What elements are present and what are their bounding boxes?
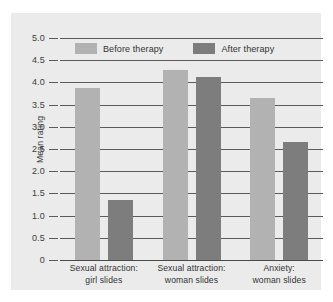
y-axis-tick-label: 4.5 — [32, 55, 45, 65]
y-axis-tick-label: 0 — [40, 255, 45, 265]
x-axis-category-label: Anxiety:woman slides — [253, 263, 306, 286]
y-axis-tick-label: 0.5 — [32, 233, 45, 243]
x-axis-category-label: Sexual attraction:woman slides — [157, 263, 225, 286]
legend-label-after-therapy: After therapy — [221, 44, 274, 54]
y-axis-tick — [49, 260, 58, 261]
bar — [108, 200, 133, 260]
x-axis-category-label-line: Sexual attraction: — [157, 263, 225, 275]
legend-swatch-before-therapy — [75, 43, 97, 54]
y-axis-tick — [49, 238, 58, 239]
x-axis-category-label-line: girl slides — [70, 275, 138, 287]
bar — [75, 88, 100, 260]
bar — [283, 142, 308, 260]
bar — [196, 77, 221, 260]
gridline — [60, 260, 323, 261]
legend-entry-after-therapy: After therapy — [193, 43, 274, 54]
y-axis-tick — [49, 171, 58, 172]
y-axis-tick-label: 1.0 — [32, 211, 45, 221]
y-axis-tick-label: 2.0 — [32, 166, 45, 176]
x-axis-category-label-line: woman slides — [157, 275, 225, 287]
y-axis-tick-label: 5.0 — [32, 33, 45, 43]
y-axis-tick — [49, 127, 58, 128]
chart-panel: Mean rating 00.51.01.52.02.53.03.54.04.5… — [11, 13, 321, 290]
x-axis-category-label: Sexual attraction:girl slides — [70, 263, 138, 286]
gridline — [60, 60, 323, 61]
x-axis-category-labels: Sexual attraction:girl slidesSexual attr… — [60, 263, 323, 295]
x-axis-category-label-line: Sexual attraction: — [70, 263, 138, 275]
y-axis-tick — [49, 193, 58, 194]
plot-area: 00.51.01.52.02.53.03.54.04.55.0 — [60, 38, 323, 260]
gridline — [60, 82, 323, 83]
legend-label-before-therapy: Before therapy — [103, 44, 163, 54]
legend-swatch-after-therapy — [193, 43, 215, 54]
figure: Mean rating 00.51.01.52.02.53.03.54.04.5… — [0, 0, 333, 302]
y-axis-tick — [49, 105, 58, 106]
y-axis-tick-label: 4.0 — [32, 77, 45, 87]
chart-legend: Before therapy After therapy — [75, 43, 274, 54]
y-axis-tick — [49, 216, 58, 217]
y-axis-tick-label: 3.5 — [32, 100, 45, 110]
y-axis-tick — [49, 82, 58, 83]
y-axis-tick — [49, 38, 58, 39]
x-axis-category-label-line: Anxiety: — [253, 263, 306, 275]
y-axis-tick-label: 2.5 — [32, 144, 45, 154]
y-axis-tick — [49, 60, 58, 61]
gridline — [60, 38, 323, 39]
bar — [250, 98, 275, 260]
legend-entry-before-therapy: Before therapy — [75, 43, 163, 54]
y-axis-tick-label: 1.5 — [32, 188, 45, 198]
bar — [163, 70, 188, 260]
y-axis-tick — [49, 149, 58, 150]
y-axis-tick-label: 3.0 — [32, 122, 45, 132]
x-axis-category-label-line: woman slides — [253, 275, 306, 287]
